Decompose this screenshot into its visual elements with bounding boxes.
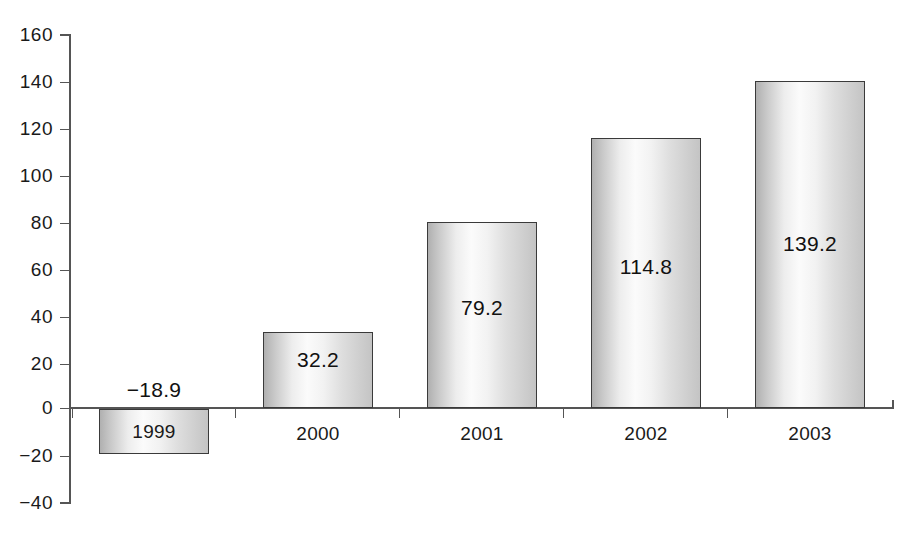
x-axis-tick-3: [563, 409, 564, 418]
bar-value-2003: 139.2: [755, 232, 865, 255]
category-label-2003: 2003: [755, 423, 865, 444]
y-axis-tick-label-120: 120: [20, 118, 53, 139]
bar-value-2000: 32.2: [263, 348, 373, 371]
y-axis-tick-label-100: 100: [20, 165, 53, 186]
y-axis-tick-label-60: 60: [31, 259, 53, 280]
y-axis-tick-label-40: 40: [31, 306, 53, 327]
x-axis-tick-0: [72, 409, 73, 418]
y-axis-tick-label-140: 140: [20, 71, 53, 92]
y-axis-tick-120: 120: [60, 129, 70, 130]
y-axis-tick-140: 140: [60, 82, 70, 83]
bar-chart: 160 140 120 100 80 60 40 20 0 −20 −40 −1…: [0, 0, 917, 538]
y-axis-tick-80: 80: [60, 223, 70, 224]
bar-value-2002: 114.8: [591, 255, 701, 278]
x-axis-tick-1: [235, 409, 236, 418]
y-axis-tick-60: 60: [60, 270, 70, 271]
y-axis-tick-label-neg40: −40: [19, 492, 53, 513]
y-axis-tick-100: 100: [60, 176, 70, 177]
bar-value-1999: −18.9: [99, 378, 209, 401]
y-axis-tick-40: 40: [60, 317, 70, 318]
category-label-2001: 2001: [427, 423, 537, 444]
y-axis-tick-label-neg20: −20: [19, 445, 53, 466]
y-axis-tick-label-0: 0: [42, 397, 53, 418]
y-axis-tick-label-20: 20: [31, 353, 53, 374]
bar-value-2001: 79.2: [427, 296, 537, 319]
x-axis-end-cap: [892, 400, 894, 409]
category-label-2000: 2000: [263, 423, 373, 444]
y-axis-tick-label-80: 80: [31, 212, 53, 233]
y-axis-tick-160: 160: [60, 35, 70, 36]
y-axis-tick-label-160: 160: [20, 24, 53, 45]
y-axis-tick-neg20: −20: [60, 456, 70, 457]
category-label-2002: 2002: [591, 423, 701, 444]
x-axis-tick-2: [399, 409, 400, 418]
x-axis-tick-4: [727, 409, 728, 418]
y-axis-tick-20: 20: [60, 364, 70, 365]
y-axis-tick-neg40: −40: [60, 503, 70, 504]
y-axis-line: [69, 34, 71, 504]
category-label-1999: 1999: [99, 421, 209, 442]
